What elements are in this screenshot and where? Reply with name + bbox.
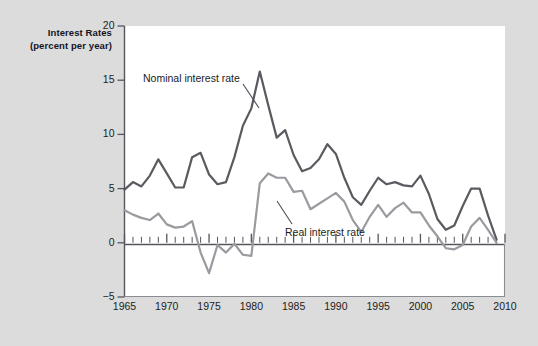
- x-axis-label-1980: 1980: [231, 300, 271, 312]
- y-axis-label-15: 15: [89, 73, 115, 85]
- chart-figure: Interest Rates (percent per year) −50510…: [0, 0, 538, 346]
- y-axis-label-5: 5: [89, 182, 115, 194]
- y-axis-ticks: [118, 26, 125, 297]
- y-axis-title-line2: (percent per year): [8, 39, 112, 52]
- real-interest-rate-label: Real interest rate: [285, 226, 365, 238]
- x-axis-label-1995: 1995: [358, 300, 398, 312]
- x-axis-label-1985: 1985: [274, 300, 314, 312]
- x-axis-label-1965: 1965: [105, 300, 145, 312]
- y-axis-label-10: 10: [89, 127, 115, 139]
- x-axis-label-1970: 1970: [147, 300, 187, 312]
- y-axis-label-0: 0: [89, 236, 115, 248]
- x-axis-label-1990: 1990: [316, 300, 356, 312]
- y-axis-label-20: 20: [89, 19, 115, 31]
- x-axis-label-1975: 1975: [189, 300, 229, 312]
- x-axis-label-2005: 2005: [443, 300, 483, 312]
- x-axis-label-2000: 2000: [400, 300, 440, 312]
- x-axis-label-2010: 2010: [485, 300, 525, 312]
- plot-background: [124, 26, 505, 297]
- nominal-interest-rate-label: Nominal interest rate: [143, 72, 240, 84]
